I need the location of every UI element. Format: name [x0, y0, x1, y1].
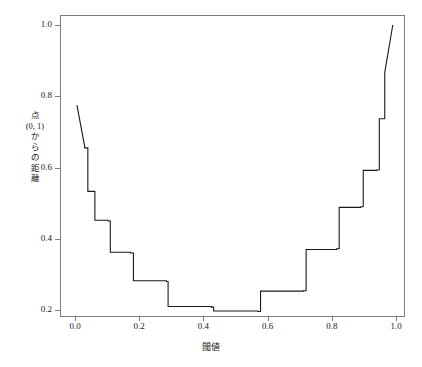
- chart-figure: 点 (0, 1) か ら の 距 離 0.20.40.60.81.0 0.00.…: [0, 0, 422, 367]
- x-tick-label-4: 0.8: [315, 321, 349, 331]
- x-tick-label-1: 0.2: [122, 321, 156, 331]
- x-tick-label-3: 0.6: [251, 321, 285, 331]
- x-tick-label-0: 0.0: [58, 321, 92, 331]
- x-axis-tick-labels: 0.00.20.40.60.81.0: [0, 321, 422, 337]
- data-line-distance-from-(0,1): [77, 25, 393, 311]
- data-series-group: [77, 25, 393, 311]
- x-axis-title: 閾値: [0, 340, 422, 353]
- x-tick-label-5: 1.0: [379, 321, 413, 331]
- axis-ticks: [55, 26, 397, 322]
- x-tick-label-2: 0.4: [186, 321, 220, 331]
- plot-frame-rect: [61, 16, 405, 317]
- plot-area: [0, 0, 422, 367]
- plot-frame: [61, 16, 405, 317]
